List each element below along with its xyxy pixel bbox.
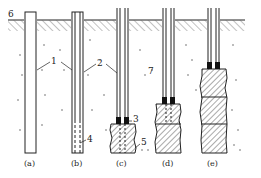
caption-b: (b) — [71, 159, 82, 168]
stage-b-casing — [72, 12, 83, 153]
label-casing: 1 — [51, 56, 57, 66]
caption-d: (d) — [162, 159, 173, 168]
label-packer: 3 — [133, 114, 139, 124]
packer-e — [207, 62, 212, 69]
label-perforated-section: 4 — [87, 134, 93, 144]
label-grout-pipe: 2 — [97, 58, 103, 68]
grouting-stages-diagram: 6 1 2 4 5 3 7 (a) (b) (c) (d) (e) — [0, 0, 261, 178]
packer-c — [116, 117, 121, 124]
caption-a: (a) — [24, 159, 35, 168]
packer-d — [162, 97, 167, 104]
label-ground-surface: 6 — [8, 9, 14, 19]
stage-a-casing — [25, 12, 36, 153]
label-grouted-zone: 5 — [141, 137, 147, 147]
caption-e: (e) — [207, 159, 218, 168]
diagram-canvas: 6 1 2 4 5 3 7 (a) (b) (c) (d) (e) — [0, 0, 261, 178]
ground-surface — [8, 19, 245, 32]
label-soil: 7 — [148, 66, 154, 76]
caption-c: (c) — [116, 159, 127, 168]
